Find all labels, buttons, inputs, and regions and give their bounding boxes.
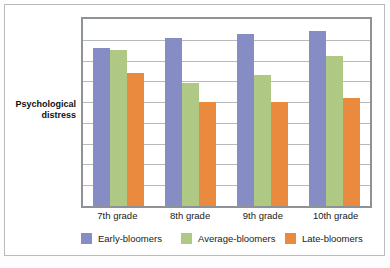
bar	[199, 102, 216, 206]
x-axis-label: 10th grade	[299, 210, 372, 221]
y-axis-title-line-1: Psychological	[2, 99, 76, 110]
legend-swatch-icon	[285, 233, 296, 244]
y-axis-title-line-2: distress	[2, 110, 76, 121]
legend-item[interactable]: Early-bloomers	[81, 232, 162, 245]
bar	[110, 50, 127, 206]
legend-label: Average-bloomers	[198, 233, 275, 244]
legend-swatch-icon	[81, 233, 92, 244]
x-axis-label: 7th grade	[81, 210, 154, 221]
x-axis-tick-labels: 7th grade8th grade9th grade10th grade	[81, 210, 372, 226]
legend-swatch-icon	[181, 233, 192, 244]
bar-group	[309, 19, 360, 206]
bar	[309, 31, 326, 206]
x-axis-label: 9th grade	[227, 210, 300, 221]
bars-layer	[83, 19, 370, 206]
bar	[343, 98, 360, 206]
bar	[237, 34, 254, 206]
bar	[326, 56, 343, 206]
bar-group	[93, 19, 144, 206]
chart-legend: Early-bloomersAverage-bloomersLate-bloom…	[81, 232, 376, 246]
y-axis-title: Psychological distress	[2, 99, 76, 121]
bar-group	[237, 19, 288, 206]
legend-label: Early-bloomers	[98, 233, 162, 244]
bar	[93, 48, 110, 206]
legend-label: Late-bloomers	[302, 233, 363, 244]
bar	[254, 75, 271, 206]
bar	[165, 38, 182, 206]
x-axis-label: 8th grade	[154, 210, 227, 221]
figure-container: Psychological distress 7th grade8th grad…	[0, 0, 390, 268]
bar	[127, 73, 144, 206]
bar-group	[165, 19, 216, 206]
bar	[182, 83, 199, 206]
plot-area	[81, 17, 372, 208]
bar	[271, 102, 288, 206]
legend-item[interactable]: Late-bloomers	[285, 232, 363, 245]
legend-item[interactable]: Average-bloomers	[181, 232, 275, 245]
